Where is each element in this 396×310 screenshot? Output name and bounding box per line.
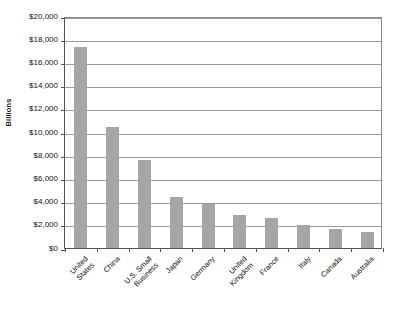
bar <box>170 197 183 248</box>
x-category-label: U.S. Small Business <box>91 255 160 310</box>
x-tick-mark <box>65 248 66 252</box>
bar-chart: Billions $0$2,000$4,000$6,000$8,000$10,0… <box>0 0 396 310</box>
y-tick-label: $14,000 <box>2 81 58 90</box>
x-tick-mark <box>351 248 352 252</box>
y-tick-mark <box>61 87 65 88</box>
x-tick-mark <box>129 248 130 252</box>
y-tick-label: $18,000 <box>2 35 58 44</box>
bar <box>297 225 310 248</box>
bar <box>265 218 278 248</box>
bar <box>202 204 215 248</box>
x-tick-mark <box>383 248 384 252</box>
y-tick-mark <box>61 157 65 158</box>
x-tick-mark <box>288 248 289 252</box>
y-tick-label: $6,000 <box>2 174 58 183</box>
x-tick-mark <box>319 248 320 252</box>
gridline <box>65 87 381 88</box>
y-tick-mark <box>61 180 65 181</box>
gridline <box>65 64 381 65</box>
bar <box>361 232 374 248</box>
y-tick-label: $2,000 <box>2 220 58 229</box>
y-tick-label: $4,000 <box>2 197 58 206</box>
bar <box>74 47 87 248</box>
x-category-label: United Kingdom <box>186 255 255 310</box>
y-tick-mark <box>61 64 65 65</box>
y-tick-mark <box>61 203 65 204</box>
bar <box>106 127 119 248</box>
y-tick-label: $12,000 <box>2 104 58 113</box>
bar <box>138 160 151 248</box>
x-category-label: Australia <box>314 255 377 310</box>
y-tick-mark <box>61 134 65 135</box>
y-tick-mark <box>61 18 65 19</box>
plot-area <box>64 17 382 249</box>
y-tick-mark <box>61 41 65 42</box>
y-tick-label: $8,000 <box>2 151 58 160</box>
bar <box>233 215 246 248</box>
y-tick-mark <box>61 110 65 111</box>
x-tick-mark <box>160 248 161 252</box>
y-tick-mark <box>61 226 65 227</box>
gridline <box>65 110 381 111</box>
x-category-label: United States <box>27 255 96 310</box>
gridline <box>65 41 381 42</box>
y-tick-label: $0 <box>2 244 58 253</box>
x-tick-mark <box>224 248 225 252</box>
x-tick-mark <box>256 248 257 252</box>
gridline <box>65 18 381 19</box>
y-tick-label: $16,000 <box>2 58 58 67</box>
x-tick-mark <box>192 248 193 252</box>
bar <box>329 229 342 248</box>
y-tick-label: $10,000 <box>2 128 58 137</box>
y-tick-label: $20,000 <box>2 12 58 21</box>
x-tick-mark <box>97 248 98 252</box>
